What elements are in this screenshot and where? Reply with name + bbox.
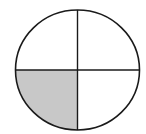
shaded-quadrant-bottom-left xyxy=(16,70,78,130)
fraction-circle-diagram xyxy=(0,0,146,134)
